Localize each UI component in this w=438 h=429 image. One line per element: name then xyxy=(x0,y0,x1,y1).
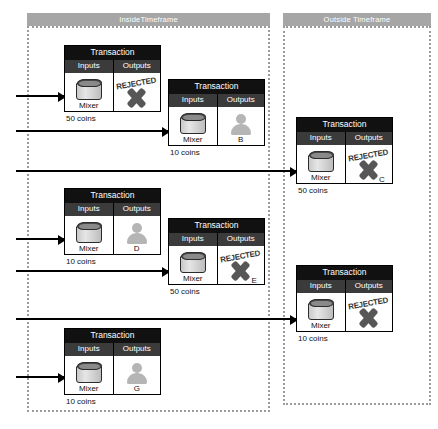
inputs-column: Inputs Mixer xyxy=(65,203,113,255)
transaction-card-tx2[interactable]: Transaction Inputs Mixer Outputs B xyxy=(168,79,265,146)
output-label: C xyxy=(379,175,385,184)
outputs-column: Outputs REJECTED E xyxy=(217,233,265,285)
outputs-header: Outputs xyxy=(218,94,265,107)
inputs-header: Inputs xyxy=(169,233,217,246)
transaction-title: Transaction xyxy=(65,46,160,60)
output-label: E xyxy=(251,276,256,285)
rejected-icon: REJECTED C xyxy=(349,152,389,182)
arrow-to-tx1 xyxy=(16,95,65,97)
rejected-icon: REJECTED xyxy=(349,300,389,330)
input-cell: Mixer xyxy=(297,293,345,332)
arrow-to-tx4 xyxy=(16,238,65,240)
amount-label-tx3: 50 coins xyxy=(298,186,328,195)
rejected-icon: REJECTED E xyxy=(221,253,261,283)
mixer-icon xyxy=(178,112,208,136)
inputs-header: Inputs xyxy=(169,94,217,107)
outputs-column: Outputs B xyxy=(217,94,265,146)
transaction-card-tx5[interactable]: Transaction Inputs Mixer Outputs REJECTE… xyxy=(168,218,265,285)
panel-outside-timeframe-header: Outside Timeframe xyxy=(283,13,431,26)
transaction-title: Transaction xyxy=(169,219,264,233)
panel-outside-timeframe-label: Outside Timeframe xyxy=(324,15,391,24)
panel-outside-timeframe xyxy=(283,26,431,405)
input-label: Mixer xyxy=(79,385,99,393)
person-icon xyxy=(228,112,254,136)
output-cell: REJECTED C xyxy=(346,145,393,184)
output-label: D xyxy=(134,245,140,253)
input-cell: Mixer xyxy=(65,216,113,255)
arrow-to-tx3 xyxy=(16,170,297,172)
inputs-header: Inputs xyxy=(297,280,345,293)
outputs-column: Outputs D xyxy=(113,203,161,255)
outputs-header: Outputs xyxy=(114,60,161,73)
mixer-icon xyxy=(178,251,208,275)
amount-label-tx1: 50 coins xyxy=(66,114,96,123)
outputs-column: Outputs REJECTED C xyxy=(345,132,393,184)
inputs-header: Inputs xyxy=(65,203,113,216)
amount-label-tx2: 10 coins xyxy=(170,148,200,157)
arrow-to-tx7 xyxy=(16,376,65,378)
inputs-header: Inputs xyxy=(65,343,113,356)
mixer-icon xyxy=(306,150,336,174)
outputs-column: Outputs REJECTED xyxy=(345,280,393,332)
inputs-column: Inputs Mixer xyxy=(169,94,217,146)
input-cell: Mixer xyxy=(65,73,113,112)
amount-label-tx7: 10 coins xyxy=(66,397,96,406)
inputs-header: Inputs xyxy=(297,132,345,145)
arrow-to-tx5 xyxy=(16,270,169,272)
transaction-title: Transaction xyxy=(297,118,392,132)
outputs-header: Outputs xyxy=(218,233,265,246)
input-label: Mixer xyxy=(311,322,331,330)
output-cell: REJECTED E xyxy=(218,246,265,285)
x-mark-icon xyxy=(355,307,382,329)
transaction-card-tx7[interactable]: Transaction Inputs Mixer Outputs G xyxy=(64,328,161,395)
transaction-card-tx4[interactable]: Transaction Inputs Mixer Outputs D xyxy=(64,188,161,255)
outputs-header: Outputs xyxy=(346,132,393,145)
transaction-card-tx6[interactable]: Transaction Inputs Mixer Outputs REJECTE… xyxy=(296,265,393,332)
transaction-card-tx3[interactable]: Transaction Inputs Mixer Outputs REJECTE… xyxy=(296,117,393,184)
mixer-icon xyxy=(74,361,104,385)
transaction-title: Transaction xyxy=(65,329,160,343)
input-label: Mixer xyxy=(311,174,331,182)
arrow-to-tx2 xyxy=(16,130,169,132)
outputs-column: Outputs REJECTED xyxy=(113,60,161,112)
panel-inside-timeframe-header: InsideTimeframe xyxy=(27,13,270,26)
output-cell: D xyxy=(114,216,161,255)
output-label: G xyxy=(134,385,140,393)
output-cell: G xyxy=(114,356,161,395)
amount-label-tx6: 10 coins xyxy=(298,334,328,343)
amount-label-tx5: 50 coins xyxy=(170,287,200,296)
output-label: B xyxy=(238,136,243,144)
input-label: Mixer xyxy=(79,102,99,110)
person-icon xyxy=(124,361,150,385)
amount-label-tx4: 10 coins xyxy=(66,257,96,266)
input-cell: Mixer xyxy=(65,356,113,395)
inputs-column: Inputs Mixer xyxy=(169,233,217,285)
output-cell: REJECTED xyxy=(346,293,393,332)
input-label: Mixer xyxy=(183,275,203,283)
x-mark-icon xyxy=(123,87,150,109)
inputs-column: Inputs Mixer xyxy=(297,132,345,184)
outputs-header: Outputs xyxy=(114,343,161,356)
input-label: Mixer xyxy=(79,245,99,253)
outputs-header: Outputs xyxy=(346,280,393,293)
person-icon xyxy=(124,221,150,245)
input-label: Mixer xyxy=(183,136,203,144)
outputs-column: Outputs G xyxy=(113,343,161,395)
inputs-column: Inputs Mixer xyxy=(65,343,113,395)
inputs-header: Inputs xyxy=(65,60,113,73)
mixer-icon xyxy=(306,298,336,322)
transaction-title: Transaction xyxy=(169,80,264,94)
x-mark-icon xyxy=(355,159,382,181)
transaction-card-tx1[interactable]: Transaction Inputs Mixer Outputs REJECTE… xyxy=(64,45,161,112)
inputs-column: Inputs Mixer xyxy=(297,280,345,332)
mixer-icon xyxy=(74,221,104,245)
arrow-to-tx6 xyxy=(16,318,297,320)
input-cell: Mixer xyxy=(169,107,217,146)
input-cell: Mixer xyxy=(169,246,217,285)
diagram-canvas: InsideTimeframe Outside Timeframe Transa… xyxy=(0,0,438,429)
output-cell: B xyxy=(218,107,265,146)
transaction-title: Transaction xyxy=(297,266,392,280)
x-mark-icon xyxy=(227,260,254,282)
rejected-icon: REJECTED xyxy=(117,80,157,110)
inputs-column: Inputs Mixer xyxy=(65,60,113,112)
